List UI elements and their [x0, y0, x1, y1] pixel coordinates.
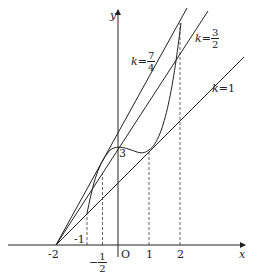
y-tick-label: 3 — [119, 148, 126, 159]
x-tick-label: -1 — [74, 234, 85, 245]
origin-label: O — [121, 249, 130, 260]
x-tick-label: -2 — [48, 249, 59, 260]
line-label-k-7-4: k=74 — [131, 50, 155, 73]
y-axis-label: y — [110, 10, 116, 21]
x-tick-label-fraction: −12 — [89, 251, 107, 274]
x-axis-label: x — [239, 249, 245, 260]
x-tick-label: 2 — [177, 249, 184, 260]
line-label-k-3-2: k=32 — [195, 27, 219, 50]
line-label-k-1: k=1 — [212, 83, 235, 94]
line-k-3-2 — [56, 11, 208, 245]
x-tick-label: 1 — [146, 249, 153, 260]
line-k-7-4 — [56, 8, 187, 245]
function-graph-figure: y x O -2 -1 −12 1 2 3 k=1 k=32 k=74 — [0, 0, 253, 274]
